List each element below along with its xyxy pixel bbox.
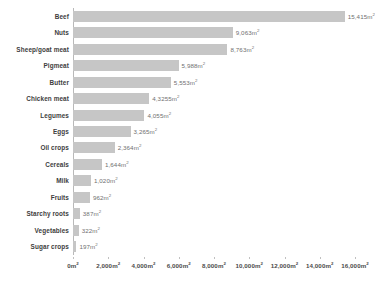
- bar-value-label: 962m2: [93, 194, 111, 201]
- bar-value-label: 4,3255m2: [152, 95, 179, 102]
- category-label: Nuts: [54, 27, 69, 38]
- bar-row: 1,020m2: [73, 175, 118, 186]
- bar-row: 3,265m2: [73, 126, 157, 137]
- x-axis-tick-label: 4,000m2: [131, 262, 155, 269]
- category-label: Beef: [55, 11, 69, 22]
- x-axis-tick: [108, 257, 109, 259]
- bar: [73, 60, 179, 71]
- bar: [73, 11, 345, 22]
- category-label: Sheep/goat meat: [16, 44, 69, 55]
- bar-value-label: 5,553m2: [174, 79, 198, 86]
- bar-value-label: 8,763m2: [230, 46, 254, 53]
- bar-row: 4,055m2: [73, 110, 171, 121]
- bar: [73, 44, 227, 55]
- bar-row: 5,553m2: [73, 77, 198, 88]
- x-axis-tick-label: 6,000m2: [167, 262, 191, 269]
- bar: [73, 77, 171, 88]
- category-label: Milk: [56, 175, 69, 186]
- x-axis-tick: [320, 257, 321, 259]
- x-axis-tick: [214, 257, 215, 259]
- category-label-group: BeefNutsSheep/goat meatPigmeatButterChic…: [0, 8, 69, 255]
- category-label: Pigmeat: [43, 60, 69, 71]
- bar-value-label: 2,364m2: [118, 144, 142, 151]
- category-label: Legumes: [40, 110, 69, 121]
- x-axis-tick: [249, 257, 250, 259]
- bar-row: 322m2: [73, 225, 100, 236]
- category-label: Fruits: [51, 192, 69, 203]
- bar: [73, 225, 79, 236]
- bar-value-label: 322m2: [82, 227, 100, 234]
- bar-row: 8,763m2: [73, 44, 254, 55]
- bar-value-label: 5,988m2: [182, 62, 206, 69]
- x-axis-tick: [285, 257, 286, 259]
- category-label: Sugar crops: [31, 241, 69, 252]
- category-label: Chicken meat: [26, 93, 69, 104]
- bar-value-label: 1,644m2: [105, 161, 129, 168]
- bar-row: 2,364m2: [73, 142, 141, 153]
- x-axis-tick-label: 12,000m2: [271, 262, 299, 269]
- bar-row: 1,644m2: [73, 159, 129, 170]
- bar-value-label: 1,020m2: [94, 177, 118, 184]
- x-axis-tick-label: 16,000m2: [341, 262, 369, 269]
- bar: [73, 142, 115, 153]
- x-axis-tick-label: 8,000m2: [202, 262, 226, 269]
- bar-row: 5,988m2: [73, 60, 205, 71]
- bar: [73, 110, 144, 121]
- category-label: Starchy roots: [27, 208, 70, 219]
- bar-value-label: 9,063m2: [236, 29, 260, 36]
- x-axis-tick: [179, 257, 180, 259]
- plot-area: 15,415m29,063m28,763m25,988m25,553m24,32…: [73, 8, 355, 255]
- bar-row: 15,415m2: [73, 11, 375, 22]
- x-axis-tick-label: 0m2: [67, 262, 79, 269]
- bar-row: 4,3255m2: [73, 93, 180, 104]
- bar-value-label: 387m2: [83, 210, 101, 217]
- x-axis-tick: [73, 257, 74, 259]
- x-axis-tick: [355, 257, 356, 259]
- x-axis-line: [73, 257, 355, 259]
- x-axis-tick-label: 10,000m2: [235, 262, 263, 269]
- bar-row: 197m2: [73, 241, 98, 252]
- bar: [73, 175, 91, 186]
- category-label: Butter: [50, 77, 69, 88]
- bar: [73, 126, 131, 137]
- bar-row: 962m2: [73, 192, 111, 203]
- bar-value-label: 3,265m2: [134, 128, 158, 135]
- category-label: Vegetables: [35, 225, 69, 236]
- bar-row: 9,063m2: [73, 27, 260, 38]
- bar: [73, 241, 76, 252]
- x-axis-tick: [144, 257, 145, 259]
- bar: [73, 192, 90, 203]
- category-label: Oil crops: [40, 142, 69, 153]
- x-axis-tick-labels: 0m22,000m24,000m26,000m28,000m210,000m21…: [0, 262, 364, 276]
- category-label: Eggs: [53, 126, 69, 137]
- bar-row: 387m2: [73, 208, 101, 219]
- bar-value-label: 15,415m2: [348, 13, 375, 20]
- x-axis-tick-label: 2,000m2: [96, 262, 120, 269]
- bar: [73, 159, 102, 170]
- bar: [73, 208, 80, 219]
- category-label: Cereals: [45, 159, 69, 170]
- bar: [73, 27, 233, 38]
- bar-value-label: 197m2: [79, 243, 97, 250]
- x-axis-tick-label: 14,000m2: [306, 262, 334, 269]
- bar-value-label: 4,055m2: [147, 112, 171, 119]
- bar: [73, 93, 149, 104]
